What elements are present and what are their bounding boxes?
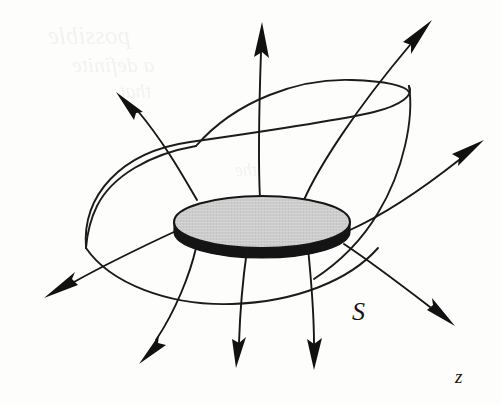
field-line-down-center-right bbox=[308, 248, 314, 344]
field-line-down-center-left bbox=[239, 250, 247, 343]
figure-canvas: possible a definite that the bbox=[0, 0, 501, 404]
axis-label-z: z bbox=[455, 366, 462, 388]
field-lines-back bbox=[116, 20, 432, 200]
field-line-down-left bbox=[156, 248, 196, 340]
field-line-left bbox=[74, 231, 176, 282]
field-line-down-left-arrowhead bbox=[139, 335, 166, 364]
charged-disk bbox=[174, 196, 350, 258]
disk-top-face bbox=[174, 196, 350, 248]
surface-label-S: S bbox=[352, 297, 366, 327]
field-line-up-left-arrowhead bbox=[116, 92, 143, 120]
field-line-right bbox=[350, 160, 459, 230]
field-line-left-arrowhead bbox=[44, 272, 78, 298]
field-diagram-svg bbox=[0, 0, 501, 404]
field-line-up bbox=[259, 52, 261, 199]
field-line-down-right-arrowhead bbox=[427, 298, 455, 326]
